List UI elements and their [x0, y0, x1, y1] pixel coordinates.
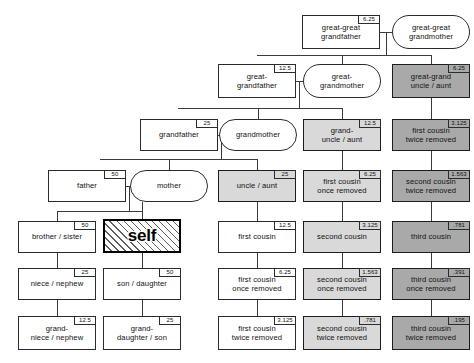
relatedness-badge-grand-niece-nephew: 12.5	[74, 316, 96, 325]
relatedness-badge-grandfather: 25	[196, 119, 218, 128]
relatedness-badge-uncle-aunt: 25	[274, 170, 296, 179]
node-grandfather[interactable]: grandfather25	[140, 119, 218, 151]
node-label-second-cousin-twice-removed-r2: second cousin twice removed	[404, 177, 458, 196]
relatedness-badge-grand-uncle-aunt: 12.5	[359, 119, 381, 128]
node-label-first-cousin: first cousin	[236, 232, 278, 241]
node-second-cousin-once-removed[interactable]: second cousin once removed1.563	[303, 268, 381, 300]
relatedness-badge-second-cousin: 3.125	[359, 221, 381, 230]
node-label-second-cousin-once-removed: second cousin once removed	[315, 275, 369, 294]
relatedness-badge-first-cousin-once-removed-r2: 6.25	[359, 170, 381, 179]
node-third-cousin-twice-removed[interactable]: third cousin twice removed.195	[392, 316, 470, 350]
relatedness-badge-brother-sister: 50	[74, 221, 96, 230]
connector-un-to-c1	[257, 202, 258, 221]
connector-g-sib-bar	[100, 159, 258, 160]
node-great-great-grandmother[interactable]: great-great grandmother	[392, 15, 470, 49]
connector-c2tr-to-c3	[431, 202, 432, 221]
node-great-grandfather[interactable]: great- grandfather12.5	[218, 64, 296, 98]
connector-g-sib-up	[221, 155, 222, 160]
node-first-cousin-once-removed-r2[interactable]: first cousin once removed6.25	[303, 170, 381, 202]
node-niece-nephew[interactable]: niece / nephew25	[18, 268, 96, 300]
connector-ggu-down	[431, 55, 432, 64]
relatedness-badge-second-cousin-twice-removed-r2: 1.563	[448, 170, 470, 179]
node-label-grandmother: grandmother	[234, 130, 282, 139]
node-grand-niece-nephew[interactable]: grand- niece / nephew12.5	[18, 316, 96, 350]
node-great-great-grandfather[interactable]: great-great grandfather6.25	[302, 15, 380, 49]
node-label-grand-daughter-son: grand- daughter / son	[115, 324, 169, 343]
node-label-great-grandfather: great- grandfather	[235, 72, 279, 91]
connector-bro-to-niece	[57, 253, 58, 268]
node-uncle-aunt[interactable]: uncle / aunt25	[218, 170, 296, 202]
connector-gu-down	[342, 108, 343, 119]
node-second-cousin-twice-removed[interactable]: second cousin twice removed.781	[303, 316, 381, 350]
node-self[interactable]: self	[103, 219, 181, 253]
node-third-cousin[interactable]: third cousin.781	[392, 221, 470, 253]
relatedness-badge-second-cousin-twice-removed: .781	[359, 316, 381, 325]
node-label-second-cousin: second cousin	[315, 232, 369, 241]
connector-son-to-gdaughter	[142, 300, 143, 316]
relatedness-badge-second-cousin-once-removed: 1.563	[359, 268, 381, 277]
relatedness-badge-grand-daughter-son: 25	[159, 316, 181, 325]
node-grand-daughter-son[interactable]: grand- daughter / son25	[103, 316, 181, 350]
connector-c2or-to-c2tr	[342, 300, 343, 316]
node-son-daughter[interactable]: son / daughter50	[103, 268, 181, 300]
relatedness-badge-first-cousin: 12.5	[274, 221, 296, 230]
node-label-grand-niece-nephew: grand- niece / nephew	[29, 324, 85, 343]
connector-p-sib-bar	[57, 211, 143, 212]
node-brother-sister[interactable]: brother / sister50	[18, 221, 96, 253]
node-first-cousin-twice-removed-r1[interactable]: first cousin twice removed3.125	[392, 119, 470, 151]
relatedness-badge-first-cousin-twice-removed-r1: 3.125	[448, 119, 470, 128]
connector-ggg-sib-up	[386, 49, 387, 55]
connector-ggu-to-c1tr	[431, 98, 432, 119]
relatedness-badge-third-cousin-once-removed: .391	[448, 268, 470, 277]
connector-bro-down	[57, 211, 58, 221]
node-label-great-grand-uncle-aunt: great-grand uncle / aunt	[409, 72, 453, 91]
node-second-cousin[interactable]: second cousin3.125	[303, 221, 381, 253]
connector-self-to-son	[142, 253, 143, 268]
connector-gm-down	[258, 108, 259, 119]
connector-self-up	[142, 202, 143, 219]
relatedness-badge-third-cousin-twice-removed: .195	[448, 316, 470, 325]
node-label-self: self	[126, 227, 159, 245]
connector-c3-to-c3or	[431, 253, 432, 268]
connector-un-down	[257, 159, 258, 170]
connector-c1or-to-c2	[342, 202, 343, 221]
node-third-cousin-once-removed[interactable]: third cousin once removed.391	[392, 268, 470, 300]
relatedness-badge-great-grand-uncle-aunt: 6.25	[448, 64, 470, 73]
node-label-third-cousin-twice-removed: third cousin twice removed	[404, 324, 458, 343]
node-second-cousin-twice-removed-r2[interactable]: second cousin twice removed1.563	[392, 170, 470, 202]
connector-c1tr-to-c2tr	[431, 151, 432, 170]
node-grand-uncle-aunt[interactable]: grand- uncle / aunt12.5	[303, 119, 381, 151]
node-label-brother-sister: brother / sister	[30, 232, 84, 241]
relatedness-badge-third-cousin: .781	[448, 221, 470, 230]
relatedness-badge-son-daughter: 50	[159, 268, 181, 277]
connector-c1-to-c1or	[257, 253, 258, 268]
node-great-grand-uncle-aunt[interactable]: great-grand uncle / aunt6.25	[392, 64, 470, 98]
connector-c2-to-c2or	[342, 253, 343, 268]
node-father[interactable]: father50	[48, 170, 126, 202]
connector-gg-sib-up	[299, 103, 300, 108]
node-label-third-cousin: third cousin	[409, 232, 453, 241]
node-grandmother[interactable]: grandmother	[219, 119, 297, 151]
connector-gg-sib-bar	[178, 108, 342, 109]
connector-ggg-sib-bar	[257, 55, 431, 56]
node-label-son-daughter: son / daughter	[115, 279, 169, 288]
relatedness-badge-niece-nephew: 25	[74, 268, 96, 277]
node-great-grandmother[interactable]: great- grandmother	[303, 64, 381, 98]
connector-niece-to-gniece	[57, 300, 58, 316]
connector-ggm-down	[342, 55, 343, 64]
node-first-cousin[interactable]: first cousin12.5	[218, 221, 296, 253]
node-label-grandfather: grandfather	[157, 130, 201, 139]
node-label-third-cousin-once-removed: third cousin once removed	[404, 275, 457, 294]
connector-gg-drop	[299, 81, 300, 103]
connector-ggg-drop	[386, 32, 387, 49]
node-first-cousin-twice-removed[interactable]: first cousin twice removed3.125	[218, 316, 296, 350]
node-mother[interactable]: mother	[130, 170, 208, 202]
node-label-first-cousin-once-removed: first cousin once removed	[230, 275, 283, 294]
connector-gu-to-c1or	[342, 151, 343, 170]
relatedness-badge-father: 50	[104, 170, 126, 179]
node-label-great-grandmother: great- grandmother	[318, 72, 366, 91]
node-label-father: father	[75, 181, 99, 190]
node-first-cousin-once-removed[interactable]: first cousin once removed6.25	[218, 268, 296, 300]
connector-c3or-to-c3tr	[431, 300, 432, 316]
consanguinity-chart: great-great grandfather6.25great-great g…	[0, 0, 474, 363]
